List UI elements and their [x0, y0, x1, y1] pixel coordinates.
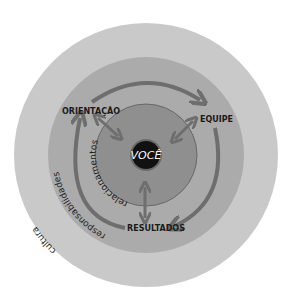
node-orientacao: ORIENTAÇÃO	[62, 106, 120, 116]
center-label: VOCÊ	[131, 149, 162, 162]
concentric-diagram: VOCÊ ORIENTAÇÃO EQUIPE RESULTADOS cultur…	[0, 0, 282, 303]
node-resultados: RESULTADOS	[127, 224, 185, 233]
node-equipe: EQUIPE	[200, 115, 233, 124]
